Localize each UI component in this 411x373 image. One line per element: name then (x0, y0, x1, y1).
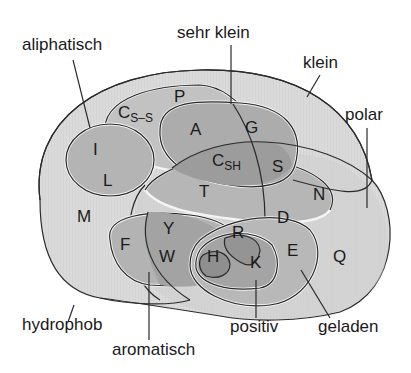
aa-Y: Y (163, 219, 174, 238)
label-klein: klein (303, 53, 338, 72)
label-hydrophob: hydrophob (22, 315, 102, 334)
aa-D: D (277, 208, 289, 227)
aa-Q: Q (333, 247, 346, 266)
aa-S: S (272, 157, 283, 176)
aa-F: F (120, 235, 130, 254)
label-aliphatisch: aliphatisch (22, 35, 102, 54)
aa-M: M (77, 207, 91, 226)
aa-I: I (93, 140, 98, 159)
aa-K: K (250, 253, 262, 272)
aa-T: T (199, 182, 209, 201)
aa-L: L (103, 171, 112, 190)
aa-A: A (190, 120, 202, 139)
venn-diagram: aliphatisch sehr klein klein polar hydro… (0, 0, 411, 373)
label-polar: polar (345, 105, 383, 124)
aa-W: W (159, 247, 175, 266)
label-positiv: positiv (230, 317, 279, 336)
aa-G: G (245, 118, 258, 137)
aa-R: R (232, 223, 244, 242)
label-sehr-klein: sehr klein (177, 23, 250, 42)
label-geladen: geladen (318, 317, 379, 336)
aa-P: P (174, 87, 185, 106)
aa-N: N (313, 185, 325, 204)
aa-H: H (207, 247, 219, 266)
label-aromatisch: aromatisch (112, 340, 195, 359)
aa-E: E (287, 241, 298, 260)
